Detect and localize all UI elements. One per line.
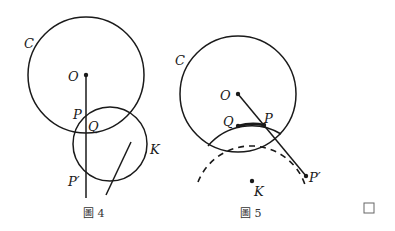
figure-4: C O P Q P′ K 圖 4: [24, 17, 161, 220]
label-c: C: [175, 53, 185, 68]
center-k-dot: [250, 179, 254, 183]
label-q: Q: [88, 119, 99, 134]
circle-k: [73, 107, 147, 181]
label-q: Q: [223, 114, 234, 129]
center-o-dot: [236, 92, 240, 96]
label-k: K: [253, 184, 265, 199]
slanted-segment: [106, 142, 131, 195]
diagram-canvas: C O P Q P′ K 圖 4 C O Q P P′ K 圖 5: [0, 0, 395, 231]
center-o-dot: [84, 73, 88, 77]
label-o: O: [220, 88, 231, 103]
figure-5-caption: 圖 5: [240, 207, 262, 220]
point-p-prime-dot: [304, 174, 308, 178]
label-o: O: [68, 69, 79, 84]
figure-4-caption: 圖 4: [83, 207, 105, 220]
label-p: P: [263, 111, 273, 126]
segment-op-prime: [238, 94, 306, 176]
label-k: K: [149, 142, 161, 157]
label-p-prime: P′: [308, 170, 321, 185]
point-q-dot: [236, 124, 240, 128]
label-p: P: [72, 107, 82, 122]
end-mark-box: [364, 203, 374, 213]
label-p-prime: P′: [67, 174, 80, 189]
label-c: C: [24, 36, 34, 51]
figure-5: C O Q P P′ K 圖 5: [175, 36, 321, 220]
